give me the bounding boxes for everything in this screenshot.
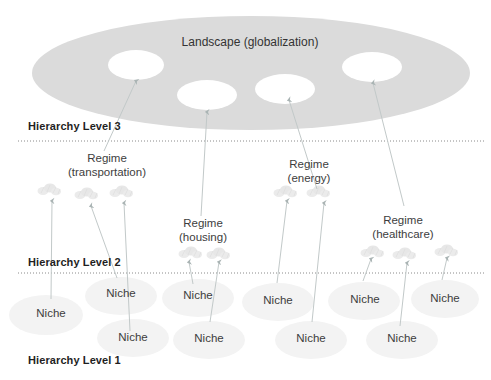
niche-label-6: Niche [430, 292, 459, 305]
niche-label-8: Niche [194, 332, 223, 345]
landscape-label: Landscape (globalization) [182, 36, 319, 49]
niche-label-7: Niche [118, 331, 147, 344]
hierarchy-level-3-label: Hierarchy Level 3 [28, 120, 121, 133]
niche-label-2: Niche [106, 287, 135, 300]
niche-ellipses [9, 277, 479, 359]
regime-cluster-healthcare-2 [393, 248, 417, 260]
regime-transportation-line1: Regime [68, 151, 146, 165]
arrow-niche1-to-transportation [51, 201, 52, 299]
landscape-window-3 [255, 74, 315, 104]
regime-transportation-line2: (transportation) [68, 165, 146, 179]
regime-energy-line2: (energy) [288, 171, 331, 185]
multi-level-perspective-diagram: Landscape (globalization) Hierarchy Leve… [0, 0, 491, 380]
regime-healthcare-label: Regime (healthcare) [372, 213, 433, 241]
regime-housing-line2: (housing) [179, 230, 227, 244]
landscape-ellipse [32, 16, 470, 130]
regime-cluster-healthcare-3 [435, 245, 459, 257]
regime-cluster-transportation-1 [38, 184, 62, 196]
regime-cluster-housing-2 [207, 248, 231, 260]
niche-label-3: Niche [183, 289, 212, 302]
arrow-niche10-to-healthcare [400, 263, 407, 326]
regime-transportation-label: Regime (transportation) [68, 151, 146, 179]
regime-energy-line1: Regime [288, 157, 331, 171]
hierarchy-level-2-label: Hierarchy Level 2 [28, 256, 121, 269]
regime-cluster-energy-2 [307, 186, 331, 198]
landscape-window-1 [108, 50, 164, 80]
niche-label-9: Niche [296, 332, 325, 345]
niche-label-4: Niche [263, 294, 292, 307]
niche-label-10: Niche [387, 332, 416, 345]
regime-healthcare-line1: Regime [372, 213, 433, 227]
diagram-canvas [0, 0, 491, 380]
landscape-window-4 [342, 52, 402, 82]
arrow-niche4-to-energy [277, 201, 287, 283]
arrow-niche6-to-healthcare [442, 258, 447, 280]
regime-cluster-transportation-3 [110, 186, 134, 198]
landscape-window-2 [177, 80, 237, 110]
niche-label-1: Niche [36, 307, 65, 320]
regime-housing-line1: Regime [179, 216, 227, 230]
hierarchy-level-1-label: Hierarchy Level 1 [28, 354, 121, 367]
regime-housing-label: Regime (housing) [179, 216, 227, 244]
arrow-niche9-to-energy [312, 203, 324, 322]
regime-healthcare-line2: (healthcare) [372, 227, 433, 241]
regime-cluster-housing-1 [179, 247, 203, 259]
arrow-niche5-to-healthcare [363, 259, 371, 281]
regime-cluster-transportation-2 [75, 188, 99, 200]
niche-label-5: Niche [350, 293, 379, 306]
regime-energy-label: Regime (energy) [288, 157, 331, 185]
regime-cluster-healthcare-1 [361, 246, 385, 258]
regime-cluster-energy-1 [274, 186, 298, 198]
